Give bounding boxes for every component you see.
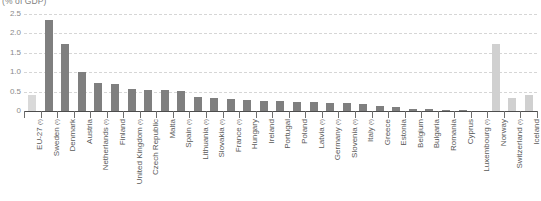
category-label-slot: Austria: [74, 119, 91, 201]
x-axis-tick: [322, 111, 323, 118]
x-axis-tick: [520, 111, 521, 118]
bar[interactable]: [177, 91, 185, 111]
bar-slot: [90, 14, 107, 111]
bar-slot: [173, 14, 190, 111]
bar-slot: [256, 14, 273, 111]
category-label-slot: Finland: [107, 119, 124, 201]
bar[interactable]: [210, 98, 218, 111]
x-axis-tick: [355, 111, 356, 118]
bar-slot: [504, 14, 521, 111]
bar[interactable]: [161, 90, 169, 111]
category-label-slot: Romania: [438, 119, 455, 201]
bar-slot: [41, 14, 58, 111]
bar[interactable]: [45, 20, 53, 111]
chart-subtitle: (% of GDP): [2, 0, 46, 6]
bar[interactable]: [78, 72, 86, 111]
bar[interactable]: [508, 98, 516, 111]
category-label-slot: Spain (¹): [173, 119, 190, 201]
bar[interactable]: [525, 95, 533, 111]
y-axis-tick-label: 0: [17, 107, 21, 115]
x-axis-tick: [223, 111, 224, 118]
bars-layer: [24, 14, 537, 111]
category-label-slot: Bulgaria: [421, 119, 438, 201]
y-axis-tick-label: 1.5: [10, 49, 21, 57]
bar[interactable]: [359, 104, 367, 111]
x-axis-tick: [372, 111, 373, 118]
category-label-slot: Iceland: [520, 119, 537, 201]
category-label-slot: France (¹): [223, 119, 240, 201]
category-label-slot: Denmark: [57, 119, 74, 201]
category-label-slot: Luxembourg (¹): [471, 119, 488, 201]
x-axis-ticks: [24, 111, 537, 119]
y-axis-tick-label: 0.5: [10, 88, 21, 96]
bar-slot: [487, 14, 504, 111]
bar-slot: [140, 14, 157, 111]
bar[interactable]: [260, 101, 268, 111]
bar-slot: [24, 14, 41, 111]
category-label-slot: Cyprus: [454, 119, 471, 201]
x-axis-tick: [487, 111, 488, 118]
bar-slot: [520, 14, 537, 111]
category-label-slot: Italy (¹): [355, 119, 372, 201]
x-axis-tick: [74, 111, 75, 118]
bar[interactable]: [94, 83, 102, 111]
bar-slot: [355, 14, 372, 111]
x-axis-tick: [289, 111, 290, 118]
category-label-slot: Lithuania (¹): [189, 119, 206, 201]
x-axis-tick: [189, 111, 190, 118]
category-label-slot: Portugal: [272, 119, 289, 201]
category-label-slot: Switzerland (¹): [504, 119, 521, 201]
bar[interactable]: [144, 90, 152, 111]
bar-slot: [322, 14, 339, 111]
bar-slot: [388, 14, 405, 111]
x-axis-tick: [256, 111, 257, 118]
bar-slot: [471, 14, 488, 111]
bar[interactable]: [227, 99, 235, 111]
category-label-slot: EU-27 (¹): [24, 119, 41, 201]
category-label-slot: Greece: [372, 119, 389, 201]
x-axis-tick: [405, 111, 406, 118]
x-axis-tick: [57, 111, 58, 118]
bar-slot: [123, 14, 140, 111]
category-label-slot: Germany (¹): [322, 119, 339, 201]
bar-slot: [107, 14, 124, 111]
y-axis-tick-label: 1.0: [10, 68, 21, 76]
category-label-slot: United Kingdom (¹): [123, 119, 140, 201]
bar-slot: [372, 14, 389, 111]
x-axis-tick: [107, 111, 108, 118]
category-label-slot: Malta: [156, 119, 173, 201]
category-label-slot: Hungary: [239, 119, 256, 201]
bar[interactable]: [492, 44, 500, 111]
bar[interactable]: [293, 102, 301, 111]
bar[interactable]: [276, 101, 284, 111]
x-axis-tick: [24, 111, 25, 118]
category-label-slot: Sweden (¹): [41, 119, 58, 201]
category-label-slot: Slovenia (¹): [338, 119, 355, 201]
category-label-slot: Ireland: [256, 119, 273, 201]
bar-slot: [305, 14, 322, 111]
category-label-slot: Netherlands (¹): [90, 119, 107, 201]
bar[interactable]: [28, 95, 36, 111]
x-axis-tick: [239, 111, 240, 118]
x-axis-category-labels: EU-27 (¹)Sweden (¹)DenmarkAustriaNetherl…: [24, 119, 537, 201]
bar[interactable]: [326, 103, 334, 111]
category-label: Iceland: [533, 119, 541, 145]
x-axis-tick: [90, 111, 91, 118]
bar[interactable]: [128, 89, 136, 111]
x-axis-tick: [504, 111, 505, 118]
bar-slot: [74, 14, 91, 111]
category-label-slot: Slovakia (¹): [206, 119, 223, 201]
bar[interactable]: [243, 100, 251, 111]
bar[interactable]: [194, 97, 202, 111]
x-axis-tick: [156, 111, 157, 118]
x-axis-tick: [454, 111, 455, 118]
bar[interactable]: [310, 102, 318, 111]
bar[interactable]: [61, 44, 69, 111]
x-axis-tick: [438, 111, 439, 118]
bar-slot: [454, 14, 471, 111]
bar[interactable]: [343, 103, 351, 111]
bar-slot: [206, 14, 223, 111]
category-label-slot: Latvia (¹): [305, 119, 322, 201]
category-label-slot: Czech Republic: [140, 119, 157, 201]
bar[interactable]: [111, 84, 119, 111]
